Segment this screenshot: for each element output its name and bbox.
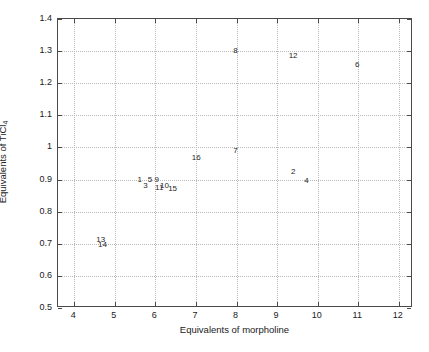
x-gridline bbox=[318, 19, 319, 306]
x-tick-label: 7 bbox=[192, 310, 197, 320]
x-gridline bbox=[277, 19, 278, 306]
data-point-label: 5 bbox=[148, 174, 152, 183]
data-point-label: 3 bbox=[143, 180, 147, 189]
x-tick-label: 8 bbox=[233, 310, 238, 320]
y-tick-label: 0.5 bbox=[39, 302, 52, 312]
data-point-label: 2 bbox=[291, 166, 295, 175]
y-tick bbox=[407, 180, 411, 181]
scatter-plot-figure: Equivalents of TiCl4 Equivalents of morp… bbox=[0, 0, 429, 352]
y-tick bbox=[407, 115, 411, 116]
x-gridline bbox=[155, 19, 156, 306]
x-tick bbox=[318, 302, 319, 306]
y-tick-label: 0.9 bbox=[39, 174, 52, 184]
y-tick bbox=[407, 212, 411, 213]
x-gridline bbox=[115, 19, 116, 306]
y-tick bbox=[58, 212, 62, 213]
x-tick bbox=[399, 302, 400, 306]
x-gridline bbox=[74, 19, 75, 306]
y-tick bbox=[58, 308, 62, 309]
data-point-label: 15 bbox=[168, 184, 177, 193]
y-tick bbox=[407, 244, 411, 245]
y-tick bbox=[58, 244, 62, 245]
x-tick bbox=[196, 19, 197, 23]
x-tick-label: 4 bbox=[71, 310, 76, 320]
x-tick-label: 12 bbox=[393, 310, 403, 320]
y-tick bbox=[58, 51, 62, 52]
y-tick bbox=[407, 276, 411, 277]
y-tick bbox=[407, 51, 411, 52]
x-tick-label: 11 bbox=[353, 310, 362, 320]
y-tick bbox=[58, 180, 62, 181]
x-tick bbox=[155, 302, 156, 306]
x-tick bbox=[237, 302, 238, 306]
y-tick bbox=[58, 147, 62, 148]
y-tick-label: 0.6 bbox=[39, 270, 52, 280]
x-tick bbox=[115, 302, 116, 306]
data-point-label: 1 bbox=[138, 174, 142, 183]
x-tick bbox=[237, 19, 238, 23]
y-tick bbox=[407, 147, 411, 148]
y-tick bbox=[58, 276, 62, 277]
y-gridline bbox=[58, 83, 411, 84]
x-tick bbox=[155, 19, 156, 23]
x-tick bbox=[115, 19, 116, 23]
x-tick-label: 5 bbox=[111, 310, 116, 320]
y-gridline bbox=[58, 212, 411, 213]
x-axis-label: Equivalents of morpholine bbox=[57, 324, 412, 335]
y-tick-label: 0.8 bbox=[39, 206, 52, 216]
x-tick-label: 10 bbox=[312, 310, 322, 320]
y-tick bbox=[407, 83, 411, 84]
y-gridline bbox=[58, 244, 411, 245]
data-point-label: 14 bbox=[98, 239, 107, 248]
x-gridline bbox=[237, 19, 238, 306]
y-gridline bbox=[58, 180, 411, 181]
data-point-label: 4 bbox=[304, 176, 308, 185]
y-gridline bbox=[58, 276, 411, 277]
y-tick-label: 1.2 bbox=[39, 77, 52, 87]
y-tick-label: 1.1 bbox=[39, 109, 52, 119]
data-point-label: 12 bbox=[289, 50, 298, 59]
y-tick-label: 1.4 bbox=[39, 13, 52, 23]
y-axis-label: Equivalents of TiCl4 bbox=[0, 121, 8, 204]
y-tick-label: 0.7 bbox=[39, 238, 52, 248]
x-tick bbox=[277, 19, 278, 23]
data-point-label: 7 bbox=[233, 145, 237, 154]
y-axis-label-subscript: 4 bbox=[2, 121, 9, 125]
x-gridline bbox=[196, 19, 197, 306]
y-tick bbox=[58, 83, 62, 84]
data-point-label: 16 bbox=[192, 152, 201, 161]
y-tick bbox=[58, 19, 62, 20]
x-gridline bbox=[399, 19, 400, 306]
data-point-label: 8 bbox=[233, 46, 237, 55]
x-tick bbox=[74, 19, 75, 23]
y-tick bbox=[58, 115, 62, 116]
y-tick bbox=[407, 19, 411, 20]
y-tick bbox=[407, 308, 411, 309]
x-tick-label: 6 bbox=[152, 310, 157, 320]
y-tick-label: 1.3 bbox=[39, 45, 52, 55]
x-tick bbox=[318, 19, 319, 23]
x-tick bbox=[358, 19, 359, 23]
y-axis-label-text: Equivalents of TiCl bbox=[0, 125, 8, 204]
y-gridline bbox=[58, 115, 411, 116]
x-tick bbox=[74, 302, 75, 306]
x-tick bbox=[196, 302, 197, 306]
x-tick bbox=[399, 19, 400, 23]
data-point-label: 6 bbox=[355, 59, 359, 68]
x-tick bbox=[277, 302, 278, 306]
x-tick-label: 9 bbox=[274, 310, 279, 320]
x-tick bbox=[358, 302, 359, 306]
y-tick-label: 1 bbox=[47, 141, 52, 151]
